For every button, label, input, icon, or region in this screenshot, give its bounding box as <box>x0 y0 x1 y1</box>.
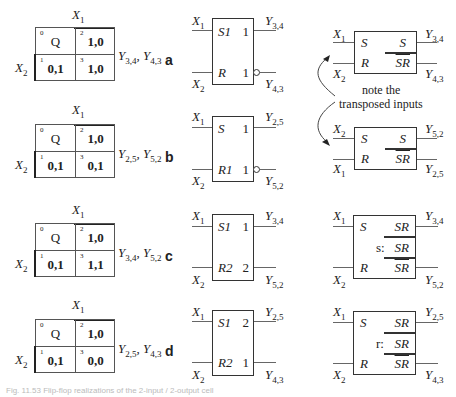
kmap-cell-2: 21,0 <box>76 320 115 346</box>
blk-in-top-label: X1 <box>333 304 345 322</box>
pin-set: S <box>218 121 225 137</box>
blk-in-top-wire <box>333 42 355 43</box>
blk-out-top-label: Y5,2 <box>425 121 443 139</box>
ff-out-bot-label: Y5,2 <box>265 173 283 191</box>
blk-in-bot-label: X2 <box>333 272 345 290</box>
kmap-cell-1: 10,1 <box>36 347 75 373</box>
blk-in-top-label: X1 <box>333 208 345 226</box>
blk-out-top-label: Y2,5 <box>425 304 443 322</box>
inverter-bubble-icon <box>253 166 260 173</box>
blk-out-top-label: Y3,4 <box>425 26 443 44</box>
ff-in-bot-label: X2 <box>192 272 204 290</box>
kmap-x1-label: X1 <box>72 297 84 315</box>
kmap-cell-2: 21,0 <box>76 28 115 54</box>
blk-out-top-wire <box>416 226 438 227</box>
pin-set: S1 <box>218 219 231 235</box>
ff-out-bot-wire <box>254 362 276 363</box>
kmap-cell-0: 0Q <box>36 224 75 250</box>
blk-in-top-wire <box>333 322 355 323</box>
blk-pin-s: S <box>360 315 367 331</box>
blk-in-bot-wire <box>333 159 355 160</box>
kmap-cell-0: 0Q <box>36 28 75 54</box>
blk-separator-1 <box>384 236 415 238</box>
blk-in-bot-label: X2 <box>333 367 345 385</box>
kmap-cell-1: 10,1 <box>36 251 75 277</box>
kmap-grid: 0Q 21,0 10,1 30,0 <box>35 319 115 373</box>
pin-out-bot: 1 <box>243 162 250 178</box>
kmap-output-labels: Y3,4, Y5,2 <box>118 245 161 263</box>
kmap-grid: 0Q 21,0 10,1 31,0 <box>35 27 115 81</box>
ff-in-top-label: X1 <box>192 208 204 226</box>
row-tag: c <box>165 248 173 264</box>
blk-out-top-expr: S <box>400 35 407 51</box>
row-tag: d <box>165 343 174 359</box>
kmap-cell-3: 31,0 <box>76 55 115 81</box>
ff-in-top-label: X1 <box>192 109 204 127</box>
blk-in-top-label: X2 <box>333 121 345 139</box>
ff-out-top-label: Y2,5 <box>265 109 283 127</box>
blk-pin-r: R <box>361 55 369 71</box>
blk-pin-r: R <box>360 260 368 276</box>
row-tag: a <box>165 52 173 68</box>
ff-out-top-wire <box>254 226 276 227</box>
ff-out-top-label: Y3,4 <box>265 13 283 31</box>
kmap-x2-label: X2 <box>15 60 27 78</box>
blk-separator <box>385 148 416 150</box>
blk-out-bot-wire <box>416 267 438 268</box>
ff-out-top-label: Y2,5 <box>265 304 283 322</box>
pin-reset: R1 <box>218 162 232 178</box>
note-line-2: transposed inputs <box>339 97 423 112</box>
pin-out-bot: 1 <box>243 355 250 371</box>
figure-caption: Fig. 11.53 Flip-flop realizations of the… <box>6 386 214 395</box>
pin-out-bot: 2 <box>243 260 250 276</box>
blk-box: S R S SR <box>354 31 417 74</box>
x2-bar <box>34 250 36 277</box>
kmap-cell-0: 0Q <box>36 320 75 346</box>
pin-reset: R2 <box>218 355 232 371</box>
blk-mid-prefix: r: <box>376 336 384 352</box>
kmap-cell-3: 31,1 <box>76 251 115 277</box>
blk-mid-expr: SR <box>395 336 409 352</box>
kmap-output-labels: Y2,5, Y5,2 <box>118 146 161 164</box>
blk-in-top-wire <box>333 138 355 139</box>
pin-out-bot: 1 <box>243 65 250 81</box>
kmap-cell-2: 21,0 <box>76 224 115 250</box>
kmap-cell-1: 10,1 <box>36 55 75 81</box>
blk-mid-expr: SR <box>395 240 409 256</box>
ff-in-bot-label: X2 <box>192 173 204 191</box>
ff-in-bot-label: X2 <box>192 367 204 385</box>
ff-in-top-label: X1 <box>192 13 204 31</box>
blk-pin-s: S <box>360 219 367 235</box>
pin-reset: R <box>218 65 226 81</box>
kmap-x2-label: X2 <box>15 352 27 370</box>
blk-pin-s: S <box>361 131 368 147</box>
blk-in-bot-wire <box>333 363 355 364</box>
kmap-cell-2: 21,0 <box>76 125 115 151</box>
kmap-cell-1: 10,1 <box>36 152 75 178</box>
blk-box: S R SR r: SR SR <box>353 311 416 375</box>
pin-out-top: 1 <box>243 219 250 235</box>
blk-out-top-label: Y3,4 <box>425 208 443 226</box>
inverter-bubble-icon <box>253 69 260 76</box>
pin-reset: R2 <box>218 260 232 276</box>
blk-out-bot-wire <box>417 63 437 64</box>
kmap-cell-3: 30,1 <box>76 152 115 178</box>
blk-out-top-expr: S <box>400 131 407 147</box>
pin-out-top: 2 <box>243 315 250 331</box>
blk-in-bot-wire <box>333 267 355 268</box>
pin-set: S1 <box>218 315 231 331</box>
note-line-1: note the <box>362 83 400 98</box>
ff-out-bot-wire <box>254 267 276 268</box>
ff-out-bot-label: Y4,3 <box>265 367 283 385</box>
blk-separator-2 <box>384 353 415 355</box>
blk-in-top-wire <box>333 226 355 227</box>
pin-out-top: 1 <box>243 24 250 40</box>
ff-out-top-label: Y3,4 <box>265 208 283 226</box>
x2-bar <box>34 346 36 373</box>
x2-bar <box>34 151 36 178</box>
blk-out-bot-expr: SR <box>396 151 410 167</box>
blk-box: S R SR s: SR SR <box>353 215 416 279</box>
kmap-x2-label: X2 <box>15 256 27 274</box>
blk-separator <box>385 52 416 54</box>
blk-out-bot-expr: SR <box>395 356 409 372</box>
